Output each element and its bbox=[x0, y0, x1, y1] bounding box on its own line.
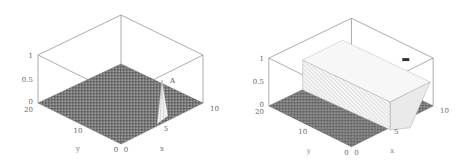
z-tick-1: 1 bbox=[259, 55, 263, 63]
left-plot-canvas: 1 0.5 0 20 10 0 0 5 10 y x A bbox=[0, 0, 231, 163]
annotation-a: A bbox=[169, 77, 176, 85]
x-axis-label: x bbox=[390, 147, 394, 155]
z-tick-0: 0 bbox=[29, 98, 33, 106]
surface-floor bbox=[38, 64, 203, 144]
x-tick-0: 0 bbox=[124, 146, 128, 154]
x-tick-10: 10 bbox=[210, 105, 219, 113]
y-axis-label: y bbox=[306, 147, 311, 155]
marker bbox=[402, 58, 409, 61]
right-surface-plot: 1 0.5 0 20 10 0 0 5 10 y x bbox=[231, 0, 462, 163]
y-axis-label: y bbox=[75, 145, 80, 153]
z-tick-1: 1 bbox=[29, 52, 33, 60]
y-tick-20: 20 bbox=[255, 108, 264, 116]
y-tick-10: 10 bbox=[298, 128, 307, 136]
y-tick-20: 20 bbox=[24, 106, 33, 114]
x-tick-5: 5 bbox=[394, 128, 398, 136]
y-tick-0: 0 bbox=[114, 146, 118, 154]
y-tick-0: 0 bbox=[344, 149, 348, 157]
z-tick-0.5: 0.5 bbox=[22, 76, 33, 84]
x-axis-label: x bbox=[160, 145, 164, 153]
y-tick-10: 10 bbox=[74, 127, 83, 135]
x-tick-0: 0 bbox=[354, 149, 358, 157]
x-tick-5: 5 bbox=[164, 125, 168, 133]
x-tick-10: 10 bbox=[440, 107, 449, 115]
right-plot-canvas: 1 0.5 0 20 10 0 0 5 10 y x bbox=[231, 0, 462, 163]
left-surface-plot: 1 0.5 0 20 10 0 0 5 10 y x A bbox=[0, 0, 231, 163]
z-tick-0.5: 0.5 bbox=[253, 78, 264, 86]
